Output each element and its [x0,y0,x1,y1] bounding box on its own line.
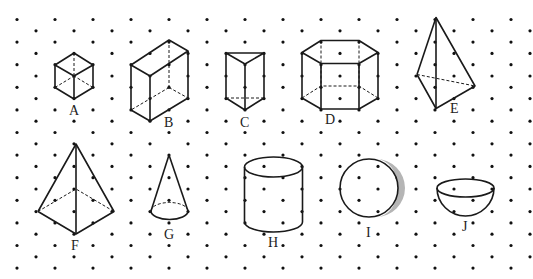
grid-dot [509,108,512,111]
grid-dot [34,52,37,55]
grid-dot [376,120,379,123]
label-g: G [164,228,174,242]
grid-dot [205,244,208,247]
grid-dot [376,233,379,236]
grid-dot [34,74,37,77]
grid-dot [53,267,56,270]
label-j: J [462,220,467,234]
grid-dot [148,165,151,168]
grid-dot [53,131,56,134]
grid-dot [91,18,94,21]
grid-dot [452,74,455,77]
figure-i-sphere [340,159,405,217]
grid-dot [110,233,113,236]
grid-dot [300,233,303,236]
grid-dot [186,29,189,32]
grid-dot [72,120,75,123]
grid-dot [34,187,37,190]
grid-dot [338,52,341,55]
grid-dot [490,165,493,168]
grid-dot [528,142,531,145]
grid-dot [262,120,265,123]
grid-dot [167,131,170,134]
grid-dot [262,210,265,213]
grid-dot [433,221,436,224]
grid-dot [509,86,512,89]
grid-dot [471,154,474,157]
grid-dot [205,108,208,111]
grid-dot [376,255,379,258]
grid-dot [110,142,113,145]
grid-dot [224,120,227,123]
grid-dot [15,199,18,202]
label-h: H [268,236,278,250]
grid-dot [91,108,94,111]
grid-dot [395,154,398,157]
grid-dot [338,142,341,145]
grid-dot [433,244,436,247]
grid-dot [262,165,265,168]
grid-dot [490,233,493,236]
grid-dot [376,29,379,32]
figure-b-rectangular-prism [131,40,188,121]
grid-dot [452,165,455,168]
grid-dot [15,41,18,44]
grid-dot [281,131,284,134]
grid-dot [509,18,512,21]
grid-dot [395,131,398,134]
grid-dot [338,120,341,123]
label-f: F [71,239,79,253]
grid-dot [376,142,379,145]
figure-h-cylinder [245,157,303,232]
grid-dot [224,187,227,190]
grid-dot [167,244,170,247]
grid-dot [395,244,398,247]
grid-dot [376,187,379,190]
grid-dot [224,255,227,258]
grid-dot [110,120,113,123]
grid-dot [129,221,132,224]
grid-dot [433,199,436,202]
grid-dot [148,233,151,236]
grid-dot [15,244,18,247]
grid-dot [300,29,303,32]
grid-dot [300,142,303,145]
grid-dot [148,187,151,190]
grid-dot [471,18,474,21]
grid-dot [167,176,170,179]
grid-dot [471,41,474,44]
grid-dot [224,233,227,236]
grid-dot [262,255,265,258]
grid-dot [357,267,360,270]
grid-dot [395,221,398,224]
grid-dot [53,41,56,44]
grid-dot [205,267,208,270]
grid-dot [34,210,37,213]
dot-grid-diagram [0,0,533,279]
grid-dot [281,267,284,270]
grid-dot [357,131,360,134]
grid-dot [129,244,132,247]
grid-dot [471,108,474,111]
grid-dot [72,255,75,258]
grid-dot [471,244,474,247]
grid-dot [490,142,493,145]
grid-dot [509,176,512,179]
grid-dot [15,131,18,134]
grid-dot [129,176,132,179]
grid-dot [357,154,360,157]
grid-dot [205,221,208,224]
grid-dot [91,131,94,134]
grid-dot [528,97,531,100]
grid-dot [205,63,208,66]
grid-dot [528,29,531,32]
grid-dot [528,52,531,55]
grid-dot [528,74,531,77]
grid-dot [262,29,265,32]
figure-a-cube [55,53,93,99]
grid-dot [72,165,75,168]
grid-dot [452,187,455,190]
grid-dot [528,233,531,236]
figure-j-hemisphere [437,179,494,216]
grid-dot [509,63,512,66]
